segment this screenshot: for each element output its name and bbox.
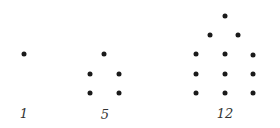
pentagonal-numbers-diagram: 1 5 12 bbox=[0, 0, 280, 128]
dot bbox=[223, 52, 228, 57]
dot bbox=[102, 52, 107, 57]
figure-2-count-label: 5 bbox=[101, 108, 109, 121]
dot bbox=[22, 52, 27, 57]
dot bbox=[251, 91, 256, 96]
dot bbox=[223, 91, 228, 96]
dot bbox=[251, 72, 256, 77]
dot bbox=[194, 52, 199, 57]
dot bbox=[88, 72, 93, 77]
dot bbox=[208, 33, 213, 38]
dot bbox=[117, 91, 122, 96]
dot bbox=[117, 72, 122, 77]
figure-1-count-label: 1 bbox=[20, 107, 28, 120]
figure-3-count-label: 12 bbox=[217, 107, 234, 120]
dot bbox=[223, 14, 228, 19]
dot bbox=[236, 33, 241, 38]
dot bbox=[251, 53, 256, 58]
dot bbox=[194, 91, 199, 96]
dot bbox=[194, 72, 199, 77]
dot bbox=[223, 72, 228, 77]
dot bbox=[88, 91, 93, 96]
